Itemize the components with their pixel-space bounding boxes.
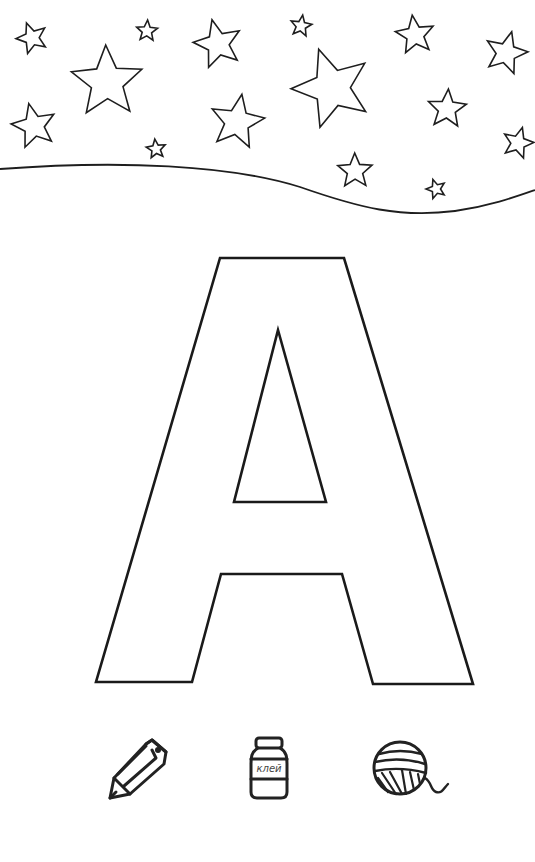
yarn-ball-icon — [374, 742, 448, 794]
star-icon — [395, 15, 433, 53]
star-icon — [193, 20, 239, 67]
star-icon — [11, 104, 54, 148]
star-icon — [429, 89, 467, 126]
star-icon — [291, 49, 366, 127]
pencil-icon — [110, 740, 166, 798]
star-icon — [505, 128, 534, 158]
star-icon — [291, 15, 312, 36]
star-icon — [338, 153, 372, 186]
worksheet-canvas: клей — [0, 0, 535, 862]
star-icon — [426, 180, 444, 199]
star-icon — [146, 139, 165, 158]
star-icon — [137, 20, 158, 40]
letter-a-outline — [96, 258, 473, 684]
star-icon — [488, 32, 529, 74]
stars-decoration — [11, 15, 534, 198]
glue-label: клей — [256, 763, 282, 774]
horizon-wave-line — [0, 165, 535, 213]
star-icon — [71, 45, 141, 113]
star-icon — [212, 94, 264, 147]
star-icon — [16, 23, 45, 53]
glue-jar-icon: клей — [251, 738, 287, 798]
